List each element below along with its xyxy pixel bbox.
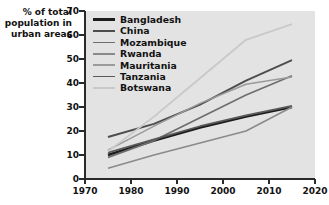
y-tick-label: 30 — [55, 102, 79, 112]
x-tick — [130, 179, 131, 184]
urban-population-line-chart: % of total population in urban areas 706… — [0, 0, 329, 205]
legend-item-mauritania[interactable]: Mauritania — [93, 60, 186, 71]
x-tick-label: 2000 — [203, 186, 243, 196]
y-tick — [79, 58, 85, 59]
x-tick-label: 2010 — [249, 186, 289, 196]
legend-item-tanzania[interactable]: Tanzania — [93, 71, 186, 82]
y-tick-label: 70 — [55, 6, 79, 16]
x-tick — [268, 179, 269, 184]
y-tick-label: 40 — [55, 78, 79, 88]
legend-label: China — [120, 25, 150, 36]
x-tick-label: 1970 — [65, 186, 105, 196]
legend-swatch-icon — [93, 64, 115, 66]
legend-swatch-icon — [93, 87, 115, 89]
legend-swatch-icon — [93, 30, 115, 32]
x-tick — [84, 179, 85, 184]
x-tick — [314, 179, 315, 184]
legend-label: Mozambique — [120, 37, 186, 48]
y-tick-label: 20 — [55, 126, 79, 136]
x-tick — [176, 179, 177, 184]
legend: BangladeshChinaMozambiqueRwandaMauritani… — [93, 14, 186, 94]
legend-item-bangladesh[interactable]: Bangladesh — [93, 14, 186, 25]
x-tick-label: 1980 — [111, 186, 151, 196]
y-tick — [79, 106, 85, 107]
y-tick-label: 10 — [55, 150, 79, 160]
legend-label: Tanzania — [120, 71, 166, 82]
y-tick-label: 50 — [55, 54, 79, 64]
legend-item-botswana[interactable]: Botswana — [93, 82, 186, 93]
legend-item-china[interactable]: China — [93, 25, 186, 36]
y-tick — [79, 154, 85, 155]
y-tick — [79, 82, 85, 83]
x-tick-label: 1990 — [157, 186, 197, 196]
legend-label: Bangladesh — [120, 14, 181, 25]
legend-label: Botswana — [120, 82, 171, 93]
y-tick-label: 60 — [55, 30, 79, 40]
y-tick-label: 0 — [55, 174, 79, 184]
legend-item-mozambique[interactable]: Mozambique — [93, 37, 186, 48]
legend-item-rwanda[interactable]: Rwanda — [93, 48, 186, 59]
legend-swatch-icon — [93, 18, 115, 21]
legend-swatch-icon — [93, 53, 115, 55]
y-tick — [79, 130, 85, 131]
legend-label: Rwanda — [120, 48, 162, 59]
legend-swatch-icon — [93, 42, 115, 44]
y-tick — [79, 34, 85, 35]
x-tick — [222, 179, 223, 184]
x-tick-label: 2020 — [295, 186, 329, 196]
legend-swatch-icon — [93, 76, 115, 78]
series-line-rwanda — [108, 107, 292, 168]
y-tick — [79, 10, 85, 11]
legend-label: Mauritania — [120, 60, 177, 71]
x-axis-line — [84, 178, 315, 180]
